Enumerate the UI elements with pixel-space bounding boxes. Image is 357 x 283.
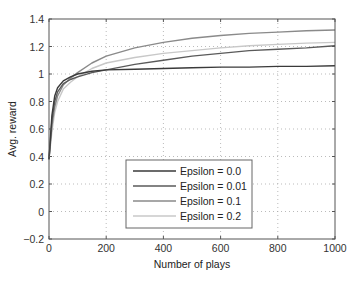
y-tick-label: 0.2 [29,178,44,190]
y-tick-label: 0.4 [29,151,44,163]
legend-label: Epsilon = 0.1 [180,195,241,207]
legend-label: Epsilon = 0.01 [180,180,247,192]
y-tick-label: −0.2 [23,233,44,245]
series-line [49,66,335,160]
x-tick-label: 200 [97,242,115,254]
x-tick-label: 1000 [323,242,347,254]
series-lines [49,30,335,159]
x-tick-label: 600 [212,242,230,254]
legend-label: Epsilon = 0.2 [180,210,241,222]
y-tick-label: 0.6 [29,123,44,135]
series-line [49,42,335,159]
legend: Epsilon = 0.0 Epsilon = 0.01 Epsilon = 0… [126,160,252,228]
x-tick-label: 0 [46,242,52,254]
y-tick-label: 0.8 [29,96,44,108]
y-tick-label: 1 [38,68,44,80]
y-axis-label: Avg. reward [6,101,18,157]
x-tick-label: 800 [269,242,287,254]
series-line [49,30,335,159]
y-tick-label: 1.2 [29,41,44,53]
y-tick-label: 1.4 [29,13,44,25]
x-axis-label: Number of plays [154,258,230,270]
x-tick-label: 400 [155,242,173,254]
y-tick-label: 0 [38,206,44,218]
line-chart: −0.200.20.40.60.811.21.4 020040060080010… [0,0,357,283]
legend-label: Epsilon = 0.0 [180,165,241,177]
